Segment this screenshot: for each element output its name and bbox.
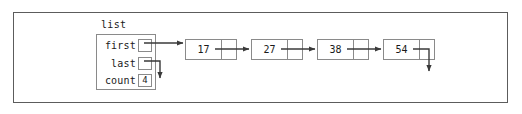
field-cell-first [138, 39, 152, 52]
list-node: 27 [251, 39, 303, 60]
list-node: 54 [383, 39, 435, 60]
field-cell-last [138, 57, 152, 70]
field-label-count: count [105, 75, 136, 87]
field-row-first: first [97, 37, 155, 54]
list-struct-title: list [101, 19, 126, 31]
node-next-pointer-cell [288, 39, 303, 60]
list-node: 38 [317, 39, 369, 60]
field-label-first: first [105, 40, 136, 52]
list-node: 17 [185, 39, 237, 60]
node-next-pointer-cell [222, 39, 237, 60]
node-next-pointer-cell [420, 39, 435, 60]
list-struct-box: first last count 4 [96, 34, 156, 90]
field-cell-count: 4 [138, 74, 152, 87]
linked-list-figure: list first last count 4 17 27 38 54 [0, 0, 522, 114]
node-next-pointer-cell [354, 39, 369, 60]
field-label-last: last [111, 58, 136, 70]
node-value: 17 [185, 39, 222, 60]
field-row-last: last [97, 55, 155, 72]
node-value: 27 [251, 39, 288, 60]
node-value: 38 [317, 39, 354, 60]
field-row-count: count 4 [97, 72, 155, 89]
node-value: 54 [383, 39, 420, 60]
